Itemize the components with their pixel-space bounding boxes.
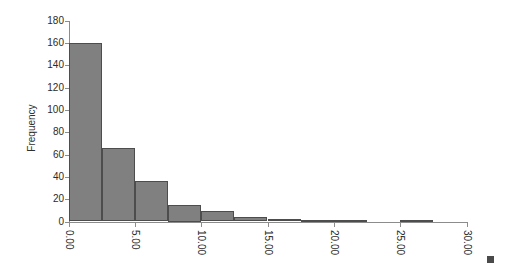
histogram-bar [400, 220, 433, 222]
histogram-bar [201, 211, 234, 221]
histogram-bar [301, 220, 334, 222]
x-axis-tick [268, 223, 269, 227]
x-axis-tick-label: 15.00 [263, 230, 273, 255]
y-axis-tick [65, 21, 69, 22]
histogram-bar [135, 181, 168, 221]
plot-area [0, 0, 511, 274]
x-axis-tick [334, 223, 335, 227]
x-axis-tick [69, 223, 70, 227]
x-axis-tick-label-wrap: 5.00 [129, 230, 141, 270]
x-axis-tick-label-wrap: 20.00 [328, 230, 340, 270]
x-axis-tick [400, 223, 401, 227]
histogram-bar [102, 148, 135, 222]
x-axis-tick [135, 223, 136, 227]
x-axis-tick-label: 20.00 [329, 230, 339, 255]
histogram-bar [168, 205, 201, 222]
histogram-bar [334, 220, 367, 222]
x-axis-tick-label-wrap: 10.00 [195, 230, 207, 270]
x-axis-tick-label-wrap: 0.00 [63, 230, 75, 270]
x-axis-tick-label: 30.00 [462, 230, 472, 255]
x-axis-tick-label-wrap: 30.00 [461, 230, 473, 270]
histogram-bar [268, 219, 301, 221]
x-axis-tick-label: 0.00 [64, 230, 74, 249]
histogram-chart: Frequency 020406080100120140160180 0.005… [0, 0, 511, 274]
y-axis-tick [65, 222, 69, 223]
x-axis-tick-label-wrap: 25.00 [394, 230, 406, 270]
histogram-bar [234, 217, 267, 221]
x-axis-tick [201, 223, 202, 227]
corner-marker [487, 256, 494, 263]
x-axis-tick-label: 25.00 [395, 230, 405, 255]
x-axis-tick-label: 5.00 [130, 230, 140, 249]
x-axis-tick-label: 10.00 [196, 230, 206, 255]
x-axis-tick-label-wrap: 15.00 [262, 230, 274, 270]
x-axis-tick [467, 223, 468, 227]
histogram-bar [69, 43, 102, 222]
